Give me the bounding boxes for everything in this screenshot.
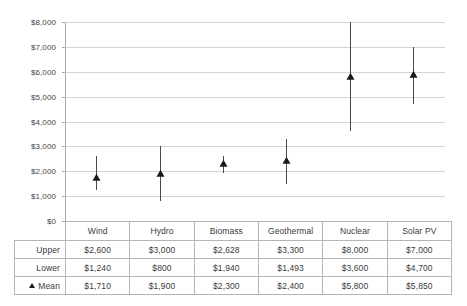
table-cell: $800	[130, 259, 194, 277]
table-cell: $1,240	[66, 259, 130, 277]
table-cell: $1,710	[66, 277, 130, 295]
column-header: Biomass	[194, 222, 258, 241]
table-row: Mean$1,710$1,900$2,300$2,400$5,800$5,850	[15, 277, 452, 295]
table-cell: $4,700	[387, 259, 451, 277]
whisker	[96, 156, 97, 190]
column-header: Geothermal	[258, 222, 322, 241]
chart-plot-area	[65, 22, 445, 221]
table-corner-cell	[15, 222, 66, 241]
y-axis-tick-label: $4,000	[31, 117, 56, 126]
y-axis-tick-label: $3,000	[31, 142, 56, 151]
table-cell: $5,850	[387, 277, 451, 295]
error-bar-solar-pv	[413, 22, 414, 221]
triangle-marker-icon	[29, 283, 35, 288]
table-cell: $2,600	[66, 241, 130, 259]
mean-marker	[219, 160, 227, 167]
mean-marker	[156, 170, 164, 177]
table-cell: $1,940	[194, 259, 258, 277]
column-header: Wind	[66, 222, 130, 241]
column-header: Nuclear	[323, 222, 387, 241]
table-cell: $1,900	[130, 277, 194, 295]
table-row: Lower$1,240$800$1,940$1,493$3,600$4,700	[15, 259, 452, 277]
y-axis-tick-label: $5,000	[31, 92, 56, 101]
table-cell: $2,300	[194, 277, 258, 295]
row-label-lower: Lower	[15, 259, 66, 277]
error-bar-biomass	[223, 22, 224, 221]
row-label-upper: Upper	[15, 241, 66, 259]
table-cell: $7,000	[387, 241, 451, 259]
table-cell: $2,400	[258, 277, 322, 295]
error-bar-wind	[96, 22, 97, 221]
y-axis-tick-label: $2,000	[31, 167, 56, 176]
data-table-wrap: WindHydroBiomassGeothermalNuclearSolar P…	[14, 221, 452, 295]
error-bar-nuclear	[350, 22, 351, 221]
error-bar-series	[65, 22, 445, 221]
table-cell: $3,000	[130, 241, 194, 259]
table-cell: $2,628	[194, 241, 258, 259]
table-cell: $3,600	[323, 259, 387, 277]
y-axis-tick-label: $8,000	[31, 18, 56, 27]
data-table: WindHydroBiomassGeothermalNuclearSolar P…	[14, 221, 452, 295]
y-axis-tick-label: $1,000	[31, 192, 56, 201]
error-bar-geothermal	[286, 22, 287, 221]
table-cell: $5,800	[323, 277, 387, 295]
row-label-mean: Mean	[15, 277, 66, 295]
mean-marker	[409, 71, 417, 78]
row-label-text: Mean	[38, 281, 60, 291]
chart-screenshot: $8,000$7,000$6,000$5,000$4,000$3,000$2,0…	[0, 0, 467, 306]
table-cell: $8,000	[323, 241, 387, 259]
table-cell: $1,493	[258, 259, 322, 277]
column-header: Solar PV	[387, 222, 451, 241]
table-cell: $3,300	[258, 241, 322, 259]
error-bar-hydro	[160, 22, 161, 221]
mean-marker	[93, 174, 101, 181]
mean-marker	[283, 157, 291, 164]
y-axis-tick-label: $7,000	[31, 42, 56, 51]
mean-marker	[346, 73, 354, 80]
y-axis-labels: $8,000$7,000$6,000$5,000$4,000$3,000$2,0…	[0, 22, 62, 221]
table-header-row: WindHydroBiomassGeothermalNuclearSolar P…	[15, 222, 452, 241]
y-axis-tick-label: $6,000	[31, 67, 56, 76]
column-header: Hydro	[130, 222, 194, 241]
table-row: Upper$2,600$3,000$2,628$3,300$8,000$7,00…	[15, 241, 452, 259]
